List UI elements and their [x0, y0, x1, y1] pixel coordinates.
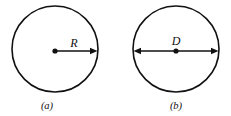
center-dot-b [173, 48, 178, 53]
radius-label: R [69, 36, 78, 50]
diameter-arrowhead-left [134, 48, 142, 54]
panel-a: R (a) [12, 6, 98, 112]
diameter-label: D [171, 34, 181, 48]
circle-radius-diameter-figure: R (a) D (b) [0, 0, 231, 116]
diameter-arrowhead-right [211, 48, 219, 54]
figure-canvas: R (a) D (b) [0, 0, 231, 116]
panel-caption-a: (a) [41, 100, 54, 112]
panel-b: D (b) [133, 6, 219, 112]
center-dot-a [52, 48, 57, 53]
radius-arrowhead-right [90, 48, 98, 54]
panel-caption-b: (b) [170, 100, 183, 112]
